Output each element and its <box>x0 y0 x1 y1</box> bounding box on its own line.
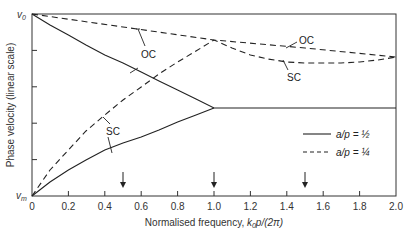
y-bottom-label: vm <box>16 190 27 202</box>
x-axis-label: Normalised frequency, k0p/(2π) <box>145 217 283 229</box>
plot-frame <box>32 14 396 196</box>
annotation-sc-half: SC <box>106 126 120 137</box>
annotation-oc-quarter: OC <box>299 35 314 46</box>
x-tick-9: 1.8 <box>353 201 367 212</box>
x-tick-labels: 0 0.2 0.4 0.6 0.8 1.0 1.2 1.4 1.6 1.8 2.… <box>29 201 403 212</box>
annotation-leaders <box>103 29 297 153</box>
x-tick-8: 1.6 <box>316 201 330 212</box>
series-quarter-oc <box>32 14 396 57</box>
legend: a/p = ½ a/p = ¼ <box>303 129 370 158</box>
arrow-down-icon <box>302 172 308 188</box>
phase-velocity-chart: 0 0.2 0.4 0.6 0.8 1.0 1.2 1.4 1.6 1.8 2.… <box>0 0 410 238</box>
x-ticks <box>68 191 359 196</box>
arrow-down-icon <box>211 172 217 188</box>
x-tick-0: 0 <box>29 201 35 212</box>
x-tick-4: 0.8 <box>171 201 185 212</box>
y-ticks <box>32 50 37 159</box>
y-axis-label: Phase velocity (linear scale) <box>5 43 16 168</box>
legend-dashed-label: a/p = ¼ <box>336 147 370 158</box>
x-tick-6: 1.2 <box>243 201 257 212</box>
arrow-markers <box>120 172 308 188</box>
arrow-down-icon <box>120 172 126 188</box>
x-tick-5: 1.0 <box>207 201 221 212</box>
y-top-label: v0 <box>17 9 26 21</box>
annotation-sc-quarter: SC <box>287 72 301 83</box>
x-tick-3: 0.6 <box>134 201 148 212</box>
series-half-oc <box>32 14 396 108</box>
x-tick-1: 0.2 <box>61 201 75 212</box>
annotation-oc-half: OC <box>141 49 156 60</box>
x-tick-2: 0.4 <box>98 201 112 212</box>
x-tick-7: 1.4 <box>280 201 294 212</box>
legend-solid-label: a/p = ½ <box>336 129 370 140</box>
x-tick-10: 2.0 <box>389 201 403 212</box>
